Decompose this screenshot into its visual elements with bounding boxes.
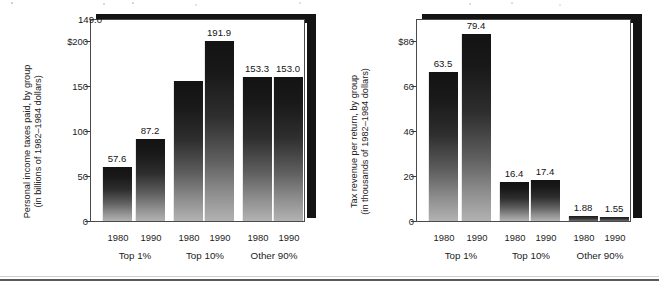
left-tickmark-100	[85, 131, 90, 132]
left-xlabel-year-5: 1980	[248, 232, 269, 243]
left-ytick-100: 100	[44, 126, 88, 137]
right-tickmark-0	[411, 221, 416, 222]
left-ytick-50: 50	[44, 171, 88, 182]
right-y-axis-title: Tax revenue per return, by group (in tho…	[348, 26, 372, 256]
right-bar-top10-1990	[530, 180, 560, 221]
right-xlabel-year-5: 1980	[574, 232, 595, 243]
left-bar-other90-1980	[242, 77, 272, 221]
chart-panel-left: Personal income taxes paid, by group (in…	[0, 0, 329, 294]
right-tickmark-60	[411, 86, 416, 87]
right-y-axis-title-line1: Tax revenue per return, by group	[349, 74, 359, 207]
right-bar-top10-1980	[499, 182, 529, 221]
left-value-top1-1990: 87.2	[141, 125, 160, 136]
left-xlabel-year-6: 1990	[279, 232, 300, 243]
left-value-other90-1980: 153.3	[245, 63, 269, 74]
left-xlabel-year-4: 1990	[210, 232, 231, 243]
left-frame-shadow-right	[307, 14, 316, 218]
left-tickmark-50	[85, 176, 90, 177]
right-tickmark-20	[411, 176, 416, 177]
left-xlabel-year-1: 1980	[108, 232, 129, 243]
right-xlabel-year-4: 1990	[536, 232, 557, 243]
right-ytick-40: 40	[370, 126, 414, 137]
left-ytick-150: 150	[44, 81, 88, 92]
left-bar-top1-1980	[102, 167, 132, 221]
left-y-axis-title-line1: Personal income taxes paid, by group	[23, 64, 33, 218]
right-tickmark-80	[411, 41, 416, 42]
page-rule-soft	[0, 276, 659, 277]
right-bars-layer	[417, 19, 630, 221]
left-group-label-other90: Other 90%	[251, 250, 298, 261]
right-bar-other90-1980	[568, 216, 598, 221]
right-tickmark-40	[411, 131, 416, 132]
left-xlabel-year-3: 1980	[179, 232, 200, 243]
left-group-label-top1: Top 1%	[119, 250, 152, 261]
right-value-top1-1980: 63.5	[434, 58, 453, 69]
left-ytick-0: 0	[44, 216, 88, 227]
right-bar-top1-1980	[428, 72, 458, 221]
right-y-axis-title-line2: (in thousands of 1982–1984 dollars)	[360, 68, 370, 215]
left-value-top10-1980: 149.0	[78, 14, 102, 25]
left-tickmark-0	[85, 221, 90, 222]
right-xlabel-year-1: 1980	[434, 232, 455, 243]
left-bar-top1-1990	[135, 139, 165, 221]
right-value-top10-1980: 16.4	[505, 168, 524, 179]
left-tickmark-200	[85, 41, 90, 42]
left-y-axis-title: Personal income taxes paid, by group (in…	[22, 26, 46, 256]
left-value-other90-1990: 153.0	[276, 63, 300, 74]
right-plot-area: 63.5 79.4 16.4 17.4 1.88 1.55	[416, 14, 636, 224]
right-xlabel-year-6: 1990	[605, 232, 626, 243]
right-ytick-60: 60	[370, 81, 414, 92]
right-group-label-other90: Other 90%	[577, 250, 624, 261]
left-group-label-top10: Top 10%	[186, 250, 224, 261]
right-value-other90-1980: 1.88	[574, 202, 593, 213]
figure-two-panel-bar-charts: Personal income taxes paid, by group (in…	[0, 0, 659, 294]
left-y-axis-title-line2: (in billions of 1982–1984 dollars)	[34, 75, 44, 207]
right-value-other90-1990: 1.55	[605, 203, 624, 214]
right-value-top10-1990: 17.4	[536, 166, 555, 177]
chart-panel-right: Tax revenue per return, by group (in tho…	[330, 0, 659, 294]
right-value-top1-1990: 79.4	[467, 20, 486, 31]
left-bars-layer	[91, 19, 304, 221]
left-xlabel-year-2: 1990	[141, 232, 162, 243]
page-rule	[0, 279, 659, 281]
right-xlabel-year-2: 1990	[467, 232, 488, 243]
left-bar-top10-1990	[204, 41, 234, 221]
right-group-label-top10: Top 10%	[512, 250, 550, 261]
right-bar-top1-1990	[461, 34, 491, 221]
left-bar-other90-1990	[273, 77, 303, 221]
left-value-top1-1980: 57.6	[108, 153, 127, 164]
right-ytick-80: $80	[370, 36, 414, 47]
right-ytick-0: 0	[370, 216, 414, 227]
left-value-top10-1990: 191.9	[207, 27, 231, 38]
right-ytick-20: 20	[370, 171, 414, 182]
left-bar-top10-1980	[173, 81, 203, 221]
left-plot-area: 57.6 87.2 149.0 191.9 153.3 153.0	[90, 14, 310, 224]
right-xlabel-year-3: 1980	[505, 232, 526, 243]
left-tickmark-150	[85, 86, 90, 87]
right-frame-shadow-right	[633, 14, 642, 218]
left-ytick-200: $200	[44, 36, 88, 47]
right-bar-other90-1990	[599, 217, 629, 221]
right-group-label-top1: Top 1%	[445, 250, 478, 261]
